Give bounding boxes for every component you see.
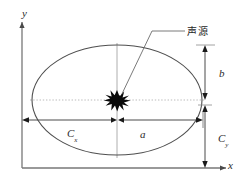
center-offset-x-subscript: x — [74, 136, 77, 144]
center-offset-y-subscript: y — [225, 141, 228, 149]
sound-source-label: 声源 — [187, 27, 208, 37]
figure-container: y x b a Cx Cy 声源 — [0, 0, 243, 187]
y-axis-label: y — [22, 8, 27, 19]
x-axis-label: x — [228, 160, 233, 171]
semi-major-axis-label: a — [140, 129, 146, 140]
semi-minor-axis-label: b — [219, 68, 225, 79]
center-offset-y-label: Cy — [218, 133, 228, 147]
center-offset-x-label: Cx — [67, 128, 77, 142]
